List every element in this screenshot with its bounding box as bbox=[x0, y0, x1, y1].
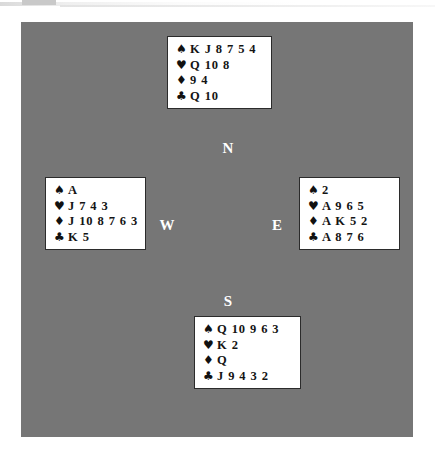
west-hearts: J 7 4 3 bbox=[68, 200, 109, 213]
compass-label-east: E bbox=[266, 218, 288, 233]
compass-label-south: S bbox=[217, 294, 239, 309]
north-diamonds: 9 4 bbox=[190, 74, 208, 87]
east-clubs: A 8 7 6 bbox=[322, 231, 365, 244]
north-spade-line: ♠ K J 8 7 5 4 bbox=[176, 43, 262, 56]
west-diamonds: J 10 8 7 6 3 bbox=[68, 215, 138, 228]
club-icon: ♣ bbox=[54, 231, 68, 243]
south-diamonds: Q bbox=[217, 354, 228, 367]
west-diamond-line: ♦ J 10 8 7 6 3 bbox=[54, 215, 136, 228]
east-spade-line: ♠ 2 bbox=[308, 184, 390, 197]
south-clubs: J 9 4 3 2 bbox=[217, 370, 269, 383]
diamond-icon: ♦ bbox=[203, 354, 217, 366]
north-hearts: Q 10 8 bbox=[190, 59, 230, 72]
compass-label-north: N bbox=[217, 141, 239, 156]
east-hearts: A 9 6 5 bbox=[322, 200, 365, 213]
north-club-line: ♣ Q 10 bbox=[176, 90, 262, 103]
bridge-deal-diagram-panel: ♠ K J 8 7 5 4 ♥ Q 10 8 ♦ 9 4 ♣ Q 10 ♠ A … bbox=[21, 22, 413, 437]
east-heart-line: ♥ A 9 6 5 bbox=[308, 200, 390, 213]
west-heart-line: ♥ J 7 4 3 bbox=[54, 200, 136, 213]
hand-box-north: ♠ K J 8 7 5 4 ♥ Q 10 8 ♦ 9 4 ♣ Q 10 bbox=[167, 36, 272, 109]
heart-icon: ♥ bbox=[54, 200, 68, 212]
east-spades: 2 bbox=[322, 184, 329, 197]
south-diamond-line: ♦ Q bbox=[203, 354, 291, 367]
north-clubs: Q 10 bbox=[190, 90, 219, 103]
hand-box-south: ♠ Q 10 9 6 3 ♥ K 2 ♦ Q ♣ J 9 4 3 2 bbox=[194, 316, 301, 389]
spade-icon: ♠ bbox=[308, 184, 322, 196]
north-heart-line: ♥ Q 10 8 bbox=[176, 59, 262, 72]
scan-artifact-tab bbox=[22, 0, 56, 5]
west-spades: A bbox=[68, 184, 78, 197]
hand-box-west: ♠ A ♥ J 7 4 3 ♦ J 10 8 7 6 3 ♣ K 5 bbox=[45, 177, 146, 250]
club-icon: ♣ bbox=[308, 231, 322, 243]
south-heart-line: ♥ K 2 bbox=[203, 339, 291, 352]
south-spades: Q 10 9 6 3 bbox=[217, 323, 279, 336]
heart-icon: ♥ bbox=[176, 59, 190, 71]
diamond-icon: ♦ bbox=[176, 74, 190, 86]
header-rule bbox=[60, 5, 435, 7]
hand-box-east: ♠ 2 ♥ A 9 6 5 ♦ A K 5 2 ♣ A 8 7 6 bbox=[299, 177, 400, 250]
north-spades: K J 8 7 5 4 bbox=[190, 43, 257, 56]
west-club-line: ♣ K 5 bbox=[54, 231, 136, 244]
diamond-icon: ♦ bbox=[308, 215, 322, 227]
spade-icon: ♠ bbox=[54, 184, 68, 196]
diamond-icon: ♦ bbox=[54, 215, 68, 227]
south-spade-line: ♠ Q 10 9 6 3 bbox=[203, 323, 291, 336]
spade-icon: ♠ bbox=[176, 43, 190, 55]
east-club-line: ♣ A 8 7 6 bbox=[308, 231, 390, 244]
west-clubs: K 5 bbox=[68, 231, 90, 244]
east-diamond-line: ♦ A K 5 2 bbox=[308, 215, 390, 228]
north-diamond-line: ♦ 9 4 bbox=[176, 74, 262, 87]
spade-icon: ♠ bbox=[203, 323, 217, 335]
compass-label-west: W bbox=[156, 218, 178, 233]
east-diamonds: A K 5 2 bbox=[322, 215, 368, 228]
south-hearts: K 2 bbox=[217, 339, 239, 352]
club-icon: ♣ bbox=[176, 90, 190, 102]
heart-icon: ♥ bbox=[203, 339, 217, 351]
south-club-line: ♣ J 9 4 3 2 bbox=[203, 370, 291, 383]
heart-icon: ♥ bbox=[308, 200, 322, 212]
west-spade-line: ♠ A bbox=[54, 184, 136, 197]
club-icon: ♣ bbox=[203, 370, 217, 382]
